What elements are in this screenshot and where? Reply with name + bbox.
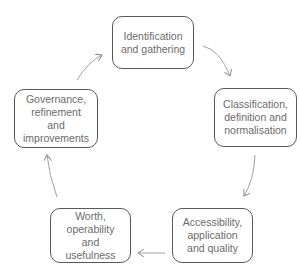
- node-label: Accessibility, application and quality: [179, 216, 246, 255]
- node-governance-refinement-improvements: Governance, refinement and improvements: [14, 89, 98, 148]
- arrow-governance-to-identification: [77, 55, 102, 80]
- node-accessibility-application-quality: Accessibility, application and quality: [172, 208, 253, 263]
- node-label: Classification, definition and normalisa…: [223, 98, 288, 137]
- cycle-diagram: Identification and gathering Classificat…: [0, 0, 300, 273]
- arrow-worth-to-governance: [47, 155, 57, 197]
- node-label: Governance, refinement and improvements: [21, 93, 91, 145]
- node-label: Identification and gathering: [117, 30, 189, 56]
- node-worth-operability-usefulness: Worth, operability and usefulness: [50, 208, 131, 263]
- arrow-identification-to-classification: [203, 46, 230, 76]
- arrow-classification-to-accessibility: [244, 155, 255, 196]
- node-identification-and-gathering: Identification and gathering: [112, 16, 194, 69]
- node-label: Worth, operability and usefulness: [57, 210, 124, 262]
- node-classification-definition-normalisation: Classification, definition and normalisa…: [214, 88, 297, 147]
